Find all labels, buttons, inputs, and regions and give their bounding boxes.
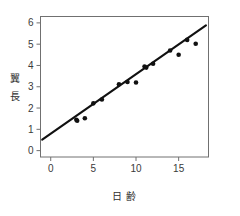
chart-background bbox=[0, 0, 240, 216]
y-tick-label: 2 bbox=[28, 103, 34, 114]
data-point bbox=[117, 82, 122, 87]
y-axis-title-char-2: 長 bbox=[10, 91, 20, 102]
data-point bbox=[193, 41, 198, 46]
x-tick-label: 10 bbox=[130, 163, 142, 174]
y-tick-label: 5 bbox=[28, 39, 34, 50]
data-point bbox=[100, 97, 105, 102]
x-tick-label: 0 bbox=[48, 163, 54, 174]
scatter-chart: 051015 0123456 日 齢 翼 長 bbox=[0, 0, 240, 216]
y-axis-title-char-1: 翼 bbox=[10, 73, 20, 84]
y-tick-label: 3 bbox=[28, 81, 34, 92]
data-point bbox=[176, 53, 181, 58]
chart-canvas: 051015 0123456 日 齢 翼 長 bbox=[0, 0, 240, 216]
data-point bbox=[185, 38, 190, 43]
data-point bbox=[168, 48, 173, 53]
data-point bbox=[125, 80, 130, 85]
x-tick-label: 5 bbox=[91, 163, 97, 174]
data-point bbox=[83, 116, 88, 121]
x-tick-label: 15 bbox=[173, 163, 185, 174]
data-point bbox=[144, 65, 149, 70]
data-point bbox=[151, 61, 156, 66]
y-tick-label: 0 bbox=[28, 145, 34, 156]
y-tick-label: 1 bbox=[28, 124, 34, 135]
y-tick-label: 4 bbox=[28, 60, 34, 71]
x-axis-title: 日 齢 bbox=[112, 190, 135, 202]
data-point bbox=[91, 101, 96, 106]
data-point bbox=[134, 80, 139, 85]
y-tick-label: 6 bbox=[28, 17, 34, 28]
data-point bbox=[75, 119, 80, 124]
